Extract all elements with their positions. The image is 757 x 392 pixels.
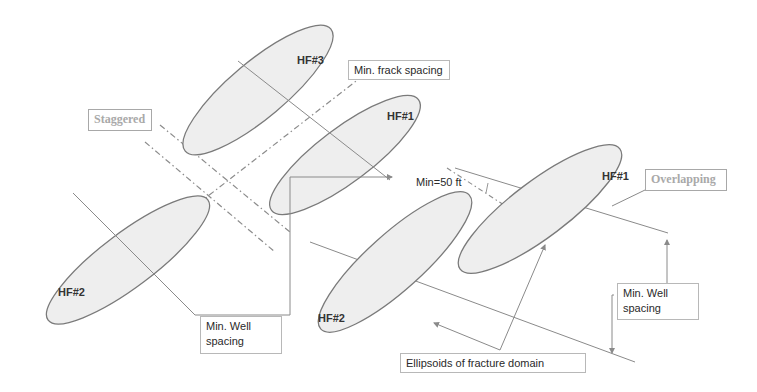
- diagram-canvas: HF#3 HF#1 HF#2 HF#1 HF#2 Staggered Overl…: [0, 0, 757, 392]
- overlapping-leader: [612, 190, 645, 206]
- ellipse-hf1-overlapping: [443, 126, 636, 291]
- min-distance-tick: [486, 183, 488, 193]
- overlapping-well-spacing-arrow-down: [612, 295, 614, 353]
- staggered-well-spacing-line2: spacing: [206, 334, 276, 349]
- staggered-well-spacing-label: Min. Well spacing: [200, 316, 282, 354]
- label-hf2-staggered: HF#2: [58, 286, 85, 298]
- ellipsoids-label: Ellipsoids of fracture domain: [400, 353, 586, 373]
- ellipsoid-leader-1: [434, 323, 500, 350]
- label-hf1-staggered: HF#1: [387, 110, 414, 122]
- label-hf3-staggered: HF#3: [297, 54, 324, 66]
- min-distance-label: Min=50 ft: [416, 176, 462, 188]
- staggered-label: Staggered: [88, 109, 152, 131]
- overlapping-well-spacing-line1: Min. Well: [623, 286, 693, 301]
- overlapping-well-spacing-line2: spacing: [623, 301, 693, 316]
- label-hf2-overlapping: HF#2: [318, 312, 345, 324]
- label-hf1-overlapping: HF#1: [602, 170, 629, 182]
- diagram-graphics: [0, 0, 757, 392]
- staggered-well-spacing-line1: Min. Well: [206, 319, 276, 334]
- overlapping-well-spacing-label: Min. Well spacing: [617, 283, 699, 320]
- overlapping-label: Overlapping: [645, 169, 727, 191]
- ellipse-hf2-staggered: [32, 178, 224, 341]
- frack-spacing-label: Min. frack spacing: [348, 60, 450, 80]
